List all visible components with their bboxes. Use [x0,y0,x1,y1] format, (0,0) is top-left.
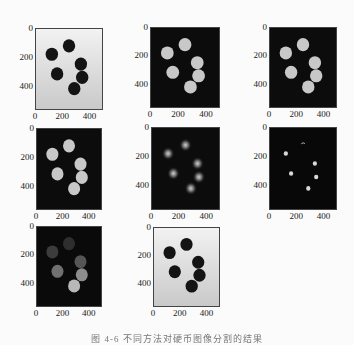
x-tick-label: 0 [142,309,164,318]
x-tick-label: 0 [258,110,280,119]
x-tick-label: 0 [24,112,46,121]
image-segmented-result [153,227,220,307]
x-tick-label: 400 [78,309,100,318]
x-tick-label: 0 [139,110,161,119]
y-tick-label: 200 [245,152,267,161]
x-tick-label: 200 [167,110,189,119]
x-tick-label: 400 [195,110,217,119]
y-tick-label: 200 [129,251,151,260]
y-tick-label: 400 [129,279,151,288]
y-tick-label: 400 [127,181,149,190]
x-tick-label: 200 [51,212,73,221]
y-tick-label: 200 [11,53,33,62]
x-tick-label: 200 [285,110,307,119]
x-tick-label: 200 [168,212,190,221]
y-tick-label: 200 [12,153,34,162]
x-tick-label: 400 [195,212,217,221]
y-tick-label: 400 [245,181,267,190]
y-tick-label: 0 [11,24,33,33]
image-binary-filled [269,27,337,108]
image-original [35,28,103,110]
figure-caption: 图 4-6 不同方法对硬币图像分割的结果 [0,332,354,345]
image-distance-transform [151,127,220,210]
x-tick-label: 200 [169,309,191,318]
image-binary-cleaned [36,128,102,210]
x-tick-label: 0 [258,212,280,221]
x-tick-label: 400 [312,212,334,221]
y-tick-label: 400 [245,80,267,89]
x-tick-label: 0 [140,212,162,221]
x-tick-label: 400 [78,212,100,221]
y-tick-label: 0 [12,222,34,231]
y-tick-label: 400 [126,80,148,89]
y-tick-label: 200 [127,152,149,161]
y-tick-label: 400 [11,82,33,91]
image-binary [150,27,220,108]
x-tick-label: 400 [78,112,100,121]
y-tick-label: 0 [245,123,267,132]
x-tick-label: 200 [51,112,73,121]
y-tick-label: 200 [126,51,148,60]
x-tick-label: 400 [312,110,334,119]
y-tick-label: 400 [12,279,34,288]
y-tick-label: 400 [12,182,34,191]
image-markers [269,127,337,210]
x-tick-label: 200 [285,212,307,221]
x-tick-label: 0 [25,212,47,221]
y-tick-label: 0 [245,23,267,32]
y-tick-label: 0 [126,23,148,32]
y-tick-label: 200 [12,250,34,259]
y-tick-label: 0 [127,123,149,132]
x-tick-label: 400 [196,309,218,318]
x-tick-label: 200 [51,309,73,318]
y-tick-label: 0 [12,124,34,133]
y-tick-label: 0 [129,223,151,232]
y-tick-label: 200 [245,51,267,60]
x-tick-label: 0 [25,309,47,318]
image-labels [36,226,102,307]
